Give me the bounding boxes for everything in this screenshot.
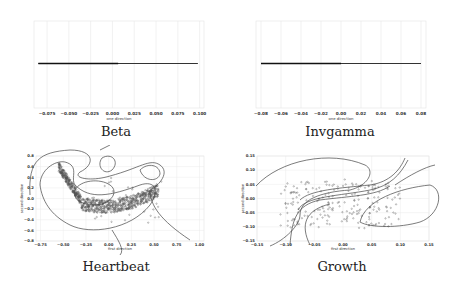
beta-caption: Beta	[36, 124, 196, 139]
svg-text:0.75: 0.75	[172, 242, 182, 247]
invgamma-chart: −0.08−0.06−0.04−0.020.000.020.040.060.08…	[240, 0, 449, 129]
svg-text:0.05: 0.05	[246, 182, 256, 187]
svg-text:−0.2: −0.2	[24, 206, 34, 211]
invgamma-caption: Invgamma	[260, 124, 420, 139]
svg-text:−0.025: −0.025	[82, 111, 99, 116]
svg-text:−0.6: −0.6	[24, 228, 34, 233]
svg-text:second direction: second direction	[20, 184, 24, 214]
invgamma-plot: −0.08−0.06−0.04−0.020.000.020.040.060.08…	[240, 0, 449, 125]
svg-text:−0.15: −0.15	[242, 238, 255, 243]
heartbeat-plot: −0.75−0.50−0.250.000.250.500.751.000.80.…	[0, 145, 225, 255]
svg-text:0.50: 0.50	[149, 242, 159, 247]
svg-text:0.075: 0.075	[171, 111, 184, 116]
svg-text:−0.050: −0.050	[60, 111, 77, 116]
svg-text:1.00: 1.00	[195, 242, 205, 247]
svg-text:−0.02: −0.02	[314, 111, 328, 116]
svg-text:second direction: second direction	[241, 184, 245, 214]
svg-text:−0.75: −0.75	[34, 242, 47, 247]
svg-text:−0.10: −0.10	[242, 224, 255, 229]
svg-text:0.00: 0.00	[246, 196, 256, 201]
svg-text:0.8: 0.8	[27, 153, 34, 158]
svg-text:first direction: first direction	[331, 247, 355, 251]
heartbeat-caption: Heartbeat	[36, 259, 196, 274]
svg-text:−0.06: −0.06	[274, 111, 288, 116]
svg-text:−0.4: −0.4	[24, 217, 34, 222]
svg-text:−0.8: −0.8	[24, 238, 34, 243]
svg-text:0.06: 0.06	[396, 111, 406, 116]
svg-text:0.02: 0.02	[356, 111, 366, 116]
svg-text:−0.50: −0.50	[57, 242, 70, 247]
growth-plot: −0.15−0.10−0.050.000.050.100.150.150.100…	[225, 145, 449, 255]
beta-plot: −0.075−0.050−0.0250.0000.0250.0500.0750.…	[0, 0, 225, 125]
svg-text:0.0: 0.0	[27, 196, 34, 201]
growth-caption: Growth	[262, 259, 422, 274]
beta-chart: −0.075−0.050−0.0250.0000.0250.0500.0750.…	[0, 0, 225, 129]
svg-text:one direction: one direction	[107, 116, 133, 121]
svg-text:0.08: 0.08	[416, 111, 426, 116]
svg-text:0.05: 0.05	[367, 242, 377, 247]
svg-text:−0.04: −0.04	[294, 111, 308, 116]
svg-text:0.10: 0.10	[396, 242, 406, 247]
svg-text:−0.08: −0.08	[254, 111, 268, 116]
svg-text:0.15: 0.15	[424, 242, 434, 247]
svg-text:first direction: first direction	[108, 247, 132, 251]
svg-text:−0.075: −0.075	[39, 111, 56, 116]
svg-text:0.10: 0.10	[246, 167, 256, 172]
svg-text:0.100: 0.100	[193, 111, 206, 116]
svg-text:0.04: 0.04	[376, 111, 386, 116]
svg-text:0.15: 0.15	[246, 153, 256, 158]
svg-text:0.2: 0.2	[27, 185, 34, 190]
growth-chart: −0.15−0.10−0.050.000.050.100.150.150.100…	[225, 145, 449, 259]
heartbeat-chart: −0.75−0.50−0.250.000.250.500.751.000.80.…	[0, 145, 225, 259]
svg-text:−0.25: −0.25	[80, 242, 93, 247]
svg-text:one direction: one direction	[329, 116, 355, 121]
svg-text:0.050: 0.050	[149, 111, 162, 116]
